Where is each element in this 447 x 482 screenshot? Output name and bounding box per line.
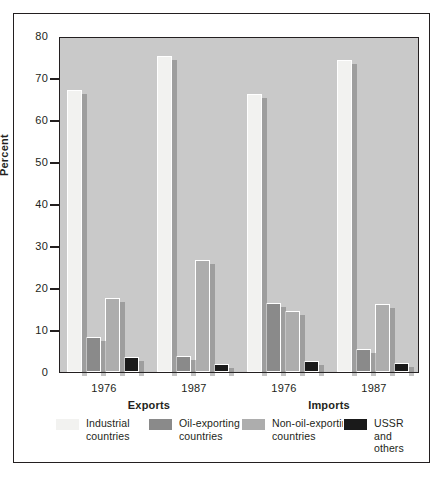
bar — [337, 60, 352, 372]
x-axis-section-label: Exports — [104, 399, 194, 411]
bar — [285, 311, 300, 372]
legend-item[interactable]: Oil-exporting countries — [148, 417, 240, 442]
bar-body — [124, 357, 139, 372]
bar-body — [266, 303, 281, 372]
bar-shadow — [409, 367, 414, 376]
legend-item[interactable]: Industrial countries — [55, 417, 130, 442]
y-tick-label: 50 — [20, 156, 48, 168]
y-tick-mark — [50, 288, 59, 290]
y-tick-mark — [50, 120, 59, 122]
bar-shadow — [191, 360, 196, 376]
bar-body — [157, 56, 172, 372]
bar — [375, 304, 390, 372]
bar — [157, 56, 172, 372]
bar-body — [214, 364, 229, 372]
bar-body — [176, 356, 191, 372]
legend-swatch-body — [55, 418, 80, 431]
x-tick-label-year: 1976 — [254, 382, 314, 394]
bar-body — [86, 337, 101, 372]
legend-swatch — [343, 418, 368, 431]
bar-shadow — [352, 64, 357, 376]
bar-body — [105, 298, 120, 372]
legend-swatch-body — [148, 418, 173, 431]
bar-shadow — [229, 368, 234, 376]
chart-legend: Industrial countriesOil-exporting countr… — [55, 417, 400, 451]
legend-item[interactable]: Non-oil-exporting countries — [241, 417, 354, 442]
bar-body — [247, 94, 262, 372]
bar-shadow — [210, 264, 215, 376]
y-axis-label: Percent — [0, 134, 10, 176]
bar-shadow — [262, 98, 267, 376]
bar — [304, 361, 319, 372]
bar — [124, 357, 139, 372]
bar-body — [356, 349, 371, 372]
bar-shadow — [139, 361, 144, 376]
chart-figure: Percent 01020304050607080 19761987197619… — [0, 0, 447, 482]
x-tick-label-year: 1976 — [74, 382, 134, 394]
x-tick-label-year: 1987 — [344, 382, 404, 394]
y-tick-mark — [50, 204, 59, 206]
bar — [266, 303, 281, 372]
bar-body — [337, 60, 352, 372]
bar-shadow — [172, 60, 177, 376]
y-tick-label: 30 — [20, 240, 48, 252]
bar — [214, 364, 229, 372]
legend-item[interactable]: USSR and others — [343, 417, 404, 455]
bar-shadow — [120, 302, 125, 376]
legend-swatch — [241, 418, 266, 431]
legend-swatch-body — [343, 418, 368, 431]
legend-swatch-body — [241, 418, 266, 431]
y-tick-label: 20 — [20, 282, 48, 294]
y-tick-mark — [50, 246, 59, 248]
bar-body — [67, 90, 82, 372]
bar — [86, 337, 101, 372]
bar-body — [285, 311, 300, 372]
bar-body — [195, 260, 210, 372]
bar — [356, 349, 371, 372]
x-axis-section-label: Imports — [284, 399, 374, 411]
y-tick-label: 60 — [20, 114, 48, 126]
bar-shadow — [101, 341, 106, 376]
bars-container — [60, 38, 418, 372]
legend-swatch — [55, 418, 80, 431]
bar-shadow — [300, 315, 305, 376]
bar-body — [394, 363, 409, 372]
x-tick-label-year: 1987 — [164, 382, 224, 394]
plot-area — [59, 37, 419, 373]
y-tick-label: 0 — [20, 366, 48, 378]
bar-shadow — [82, 94, 87, 376]
y-tick-label: 40 — [20, 198, 48, 210]
bar — [195, 260, 210, 372]
bar-body — [375, 304, 390, 372]
y-tick-label: 80 — [20, 30, 48, 42]
legend-label: Industrial countries — [86, 417, 130, 442]
bar — [176, 356, 191, 372]
bar-shadow — [371, 353, 376, 376]
bar — [394, 363, 409, 372]
bar-shadow — [319, 365, 324, 376]
y-tick-mark — [50, 78, 59, 80]
bar-shadow — [390, 308, 395, 376]
y-tick-label: 10 — [20, 324, 48, 336]
bar — [105, 298, 120, 372]
y-tick-mark — [50, 330, 59, 332]
bar-shadow — [281, 307, 286, 376]
y-tick-label: 70 — [20, 72, 48, 84]
bar — [67, 90, 82, 372]
legend-swatch — [148, 418, 173, 431]
y-tick-mark — [50, 162, 59, 164]
legend-label: Oil-exporting countries — [179, 417, 240, 442]
legend-label: USSR and others — [374, 417, 404, 455]
bar — [247, 94, 262, 372]
bar-body — [304, 361, 319, 372]
legend-label: Non-oil-exporting countries — [272, 417, 354, 442]
